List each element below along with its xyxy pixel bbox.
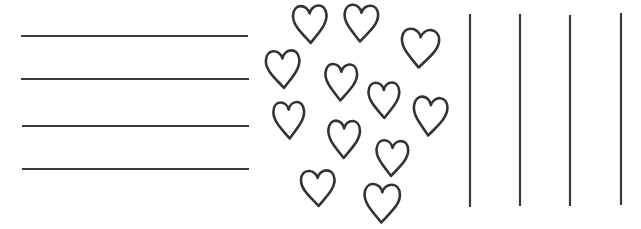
worksheet-drawing — [0, 0, 641, 229]
heart-12-icon — [364, 184, 401, 223]
heart-7-icon — [412, 96, 449, 137]
heart-4-icon — [265, 50, 300, 89]
heart-2-icon — [343, 4, 378, 42]
heart-cluster-group — [265, 4, 448, 223]
worksheet-canvas — [0, 0, 641, 229]
heart-9-icon — [328, 121, 360, 159]
vertical-rule-lines-group — [470, 13, 621, 207]
heart-6-icon — [368, 82, 399, 118]
horizontal-rule-lines-group — [21, 36, 249, 169]
heart-3-icon — [400, 28, 440, 69]
heart-8-icon — [273, 102, 305, 139]
heart-5-icon — [324, 64, 357, 101]
heart-11-icon — [301, 170, 336, 206]
heart-1-icon — [293, 5, 328, 43]
heart-10-icon — [375, 140, 408, 177]
